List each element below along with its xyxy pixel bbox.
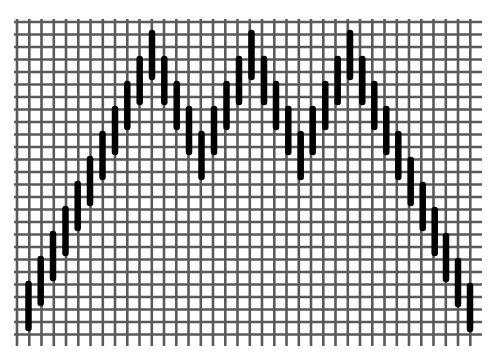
pattern-grid-diagram <box>0 0 498 359</box>
